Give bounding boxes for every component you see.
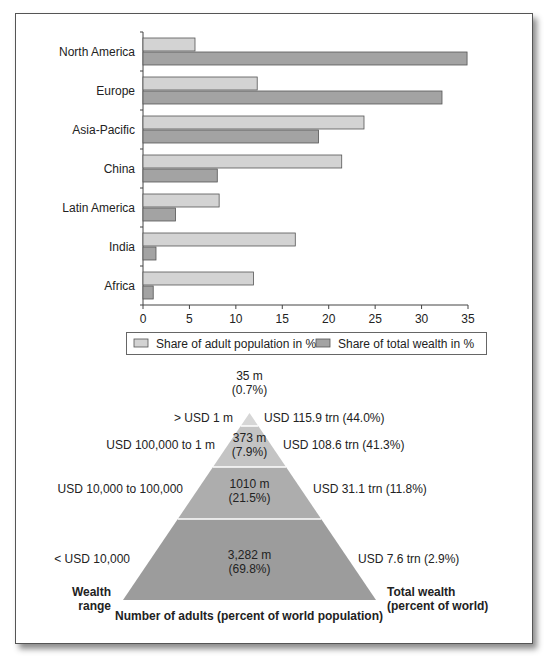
- adults-count-label: 1010 m: [229, 477, 269, 491]
- legend-swatch: [316, 339, 330, 347]
- x-tick-label: 5: [186, 312, 193, 326]
- bar-population: [143, 38, 195, 51]
- category-label: Latin America: [62, 201, 135, 215]
- wealth-pyramid: > USD 1 mUSD 115.9 trn (44.0%)35 m(0.7%)…: [54, 369, 488, 623]
- category-label: India: [109, 240, 135, 254]
- x-tick-label: 15: [276, 312, 290, 326]
- pyramid-tier: [241, 413, 259, 426]
- bar-population: [143, 272, 254, 285]
- chart-legend: Share of adult population in %Share of t…: [127, 333, 487, 355]
- total-wealth-label: USD 7.6 trn (2.9%): [358, 552, 459, 566]
- adults-count-label: 3,282 m: [228, 548, 271, 562]
- bar-population: [143, 77, 257, 90]
- total-wealth-label: USD 115.9 trn (44.0%): [264, 411, 385, 425]
- x-tick-label: 35: [461, 312, 475, 326]
- category-label: Africa: [104, 279, 135, 293]
- category-label: Asia-Pacific: [72, 123, 135, 137]
- total-wealth-label: USD 31.1 trn (11.8%): [313, 482, 427, 496]
- number-of-adults-axis-label: Number of adults (percent of world popul…: [115, 609, 383, 623]
- bar-wealth: [143, 91, 442, 104]
- wealth-range-axis-label: range: [78, 599, 111, 613]
- bar-wealth: [143, 208, 176, 221]
- x-tick-label: 20: [322, 312, 336, 326]
- adults-percent-label: (69.8%): [228, 562, 270, 576]
- x-tick-label: 30: [415, 312, 429, 326]
- category-label: North America: [59, 45, 135, 59]
- category-label: China: [104, 162, 136, 176]
- bar-wealth: [143, 286, 153, 299]
- bar-wealth: [143, 130, 319, 143]
- adults-percent-label: (21.5%): [228, 491, 270, 505]
- category-label: Europe: [96, 84, 135, 98]
- wealth-range-axis-label: Wealth: [72, 585, 111, 599]
- wealth-range-label: USD 10,000 to 100,000: [58, 482, 184, 496]
- adults-percent-label: (7.9%): [232, 445, 267, 459]
- legend-label: Share of adult population in %: [156, 337, 316, 351]
- total-wealth-axis-label: (percent of world): [387, 599, 488, 613]
- x-tick-label: 25: [368, 312, 382, 326]
- adults-percent-label: (0.7%): [232, 383, 267, 397]
- legend-label: Share of total wealth in %: [338, 337, 474, 351]
- total-wealth-label: USD 108.6 trn (41.3%): [283, 438, 404, 452]
- bar-population: [143, 155, 342, 168]
- bar-population: [143, 233, 295, 246]
- adults-count-label: 373 m: [233, 431, 266, 445]
- x-tick-label: 0: [140, 312, 147, 326]
- wealth-range-label: > USD 1 m: [174, 411, 233, 425]
- bar-wealth: [143, 52, 467, 65]
- wealth-range-label: USD 100,000 to 1 m: [106, 438, 215, 452]
- bar-wealth: [143, 169, 217, 182]
- x-tick-label: 10: [229, 312, 243, 326]
- wealth-range-label: < USD 10,000: [54, 552, 130, 566]
- legend-swatch: [134, 339, 148, 347]
- adults-count-label: 35 m: [236, 369, 263, 383]
- bar-wealth: [143, 247, 156, 260]
- total-wealth-axis-label: Total wealth: [387, 585, 455, 599]
- figure-canvas: 05101520253035North AmericaEuropeAsia-Pa…: [0, 0, 554, 659]
- bar-population: [143, 116, 364, 129]
- bar-chart: 05101520253035North AmericaEuropeAsia-Pa…: [59, 32, 475, 326]
- bar-population: [143, 194, 219, 207]
